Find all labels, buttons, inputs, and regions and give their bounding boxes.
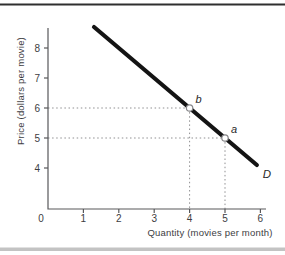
bottom-divider bbox=[0, 248, 285, 252]
x-tick-label: 3 bbox=[151, 213, 157, 224]
point-a-marker bbox=[222, 135, 228, 141]
y-axis-title: Price (dollars per movie) bbox=[15, 37, 26, 145]
demand-curve bbox=[94, 27, 257, 165]
x-tick-label: 6 bbox=[258, 213, 264, 224]
point-a-label: a bbox=[231, 123, 237, 135]
y-tick-label: 8 bbox=[34, 43, 40, 54]
x-axis-title: Quantity (movies per month) bbox=[147, 227, 272, 238]
y-tick-label: 5 bbox=[34, 133, 40, 144]
x-tick-label: 0 bbox=[38, 213, 44, 224]
x-tick-label: 1 bbox=[81, 213, 87, 224]
y-tick-label: 6 bbox=[34, 103, 40, 114]
point-b-marker bbox=[186, 105, 192, 111]
top-divider bbox=[0, 4, 285, 6]
axes bbox=[48, 28, 266, 209]
x-tick-label: 5 bbox=[222, 213, 228, 224]
x-tick-label: 2 bbox=[116, 213, 122, 224]
point-b-label: b bbox=[196, 93, 202, 105]
demand-curve-figure: 456780123456DbaQuantity (movies per mont… bbox=[0, 0, 285, 255]
y-tick-label: 4 bbox=[34, 163, 40, 174]
y-tick-label: 7 bbox=[34, 73, 40, 84]
demand-curve-label: D bbox=[263, 168, 271, 180]
x-tick-label: 4 bbox=[187, 213, 193, 224]
demand-chart: 456780123456DbaQuantity (movies per mont… bbox=[0, 0, 285, 255]
